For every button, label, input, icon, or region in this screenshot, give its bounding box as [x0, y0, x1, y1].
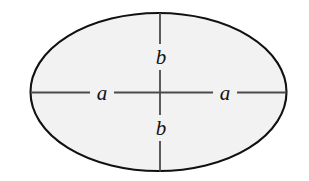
semi-axis-label-b-bottom: b: [156, 118, 167, 139]
semi-axis-label-b-top: b: [156, 47, 167, 68]
ellipse-figure: a a b b: [0, 0, 309, 181]
ellipse-diagram-svg: [0, 0, 309, 181]
semi-axis-label-a-right: a: [220, 83, 231, 104]
semi-axis-label-a-left: a: [97, 83, 108, 104]
